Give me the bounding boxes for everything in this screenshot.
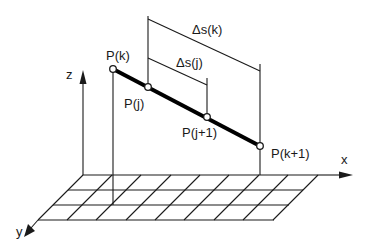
x-axis-arrow-icon — [339, 172, 353, 179]
grid-col-line — [273, 175, 318, 220]
grid-col-line — [155, 175, 200, 220]
label-pk: P(k) — [106, 48, 130, 63]
label-pj: P(j) — [124, 96, 144, 111]
grid-col-line — [96, 175, 141, 220]
point-labels: P(k) P(j) P(j+1) P(k+1) — [106, 48, 310, 161]
grid-col-line — [184, 175, 229, 220]
ds-k-label: Δs(k) — [192, 22, 222, 37]
y-axis-label: y — [16, 224, 23, 239]
ground-grid — [38, 175, 318, 220]
grid-col-line — [38, 175, 83, 220]
grid-col-line — [67, 175, 112, 220]
dimension-ds-j: Δs(j) — [148, 55, 207, 116]
x-axis-label: x — [341, 152, 348, 167]
arc-length-diagram: z x y Δs(k) Δs(j) P(k) P(j) P(j+1) P(k+1… — [0, 0, 371, 250]
point-pj1 — [204, 114, 211, 121]
label-pj1: P(j+1) — [182, 125, 217, 140]
grid-col-line — [243, 175, 288, 220]
grid-col-line — [214, 175, 259, 220]
z-axis-arrow-icon — [80, 70, 87, 84]
label-pk1: P(k+1) — [271, 146, 310, 161]
ds-j-label: Δs(j) — [176, 55, 203, 70]
point-pk1 — [257, 143, 264, 150]
z-axis-label: z — [66, 67, 73, 82]
grid-col-line — [126, 175, 171, 220]
point-pj — [145, 84, 152, 91]
point-pk — [110, 66, 117, 73]
y-axis — [31, 220, 38, 228]
